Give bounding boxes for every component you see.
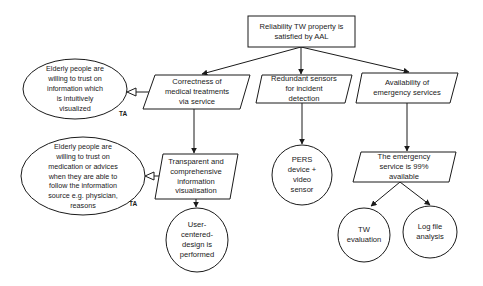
- claim-transparent-label: Transparent and comprehensive informatio…: [158, 154, 234, 199]
- edge-goal-to-availability: [301, 47, 409, 72]
- hollow-arrowhead-icon: [127, 88, 136, 96]
- assumption-source-tag: TA: [129, 200, 137, 207]
- evidence-pers-label: PERS device + video sensor: [272, 145, 332, 205]
- strategy-redundant-label: Redundant sensors for incident detection: [260, 75, 348, 103]
- evidence-ucd-label: User- centered- design is performed: [166, 208, 228, 272]
- edge-emergency-to-log: [400, 182, 430, 205]
- assumption-intuitive-tag: TA: [119, 110, 127, 117]
- evidence-tw-label: TW evaluation: [338, 208, 390, 262]
- claim-emergency-label: The emergency service is 99% available: [356, 152, 452, 182]
- goal-label: Reliability TW property is satisfied by …: [248, 16, 355, 47]
- hollow-arrowhead-icon: [145, 172, 154, 180]
- edge-goal-to-correctness: [202, 47, 301, 74]
- evidence-log-label: Log file analysis: [403, 206, 457, 258]
- strategy-availability-label: Availability of emergency services: [359, 73, 455, 103]
- edge-emergency-to-tw: [371, 182, 400, 206]
- assumption-source-label: Elderly people are willing to trust on m…: [22, 138, 144, 215]
- strategy-correctness-label: Correctness of medical treatments via se…: [150, 75, 244, 109]
- assumption-intuitive-label: Elderly people are willing to trust on i…: [24, 59, 126, 119]
